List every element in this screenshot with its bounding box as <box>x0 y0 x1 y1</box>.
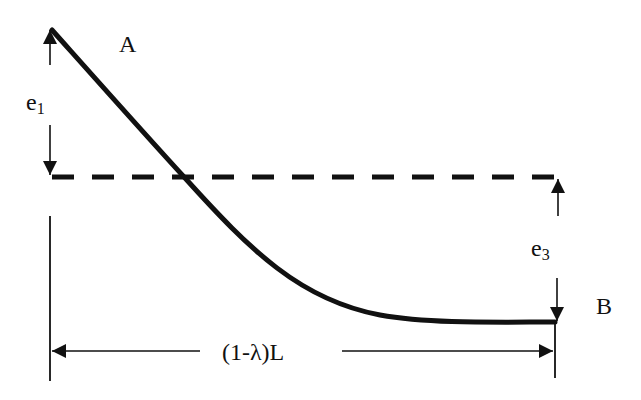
label-point-a: A <box>119 31 137 57</box>
label-e1: e1 <box>26 89 45 117</box>
deflection-diagram: A B e1 e3 (1-λ)L <box>0 0 641 400</box>
label-e3: e3 <box>531 235 550 263</box>
label-span: (1-λ)L <box>222 339 284 365</box>
label-point-b: B <box>596 293 612 319</box>
